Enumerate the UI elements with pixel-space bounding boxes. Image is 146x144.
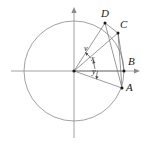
angle-label-v: v: [84, 45, 88, 53]
point-label-A: A: [126, 82, 133, 93]
point-marker-C: [117, 32, 120, 35]
point-label-D: D: [101, 8, 109, 19]
point-label-B: B: [128, 56, 135, 67]
radius-OC: [74, 33, 118, 71]
geometry-figure: A B C D v x y: [0, 0, 146, 144]
angle-label-x: x: [91, 55, 95, 63]
chord-CB: [118, 33, 124, 71]
point-marker-origin: [72, 69, 75, 72]
point-marker-A: [121, 87, 124, 90]
y-axis-arrowhead: [71, 7, 76, 13]
x-axis-arrowhead: [134, 68, 140, 73]
radius-OD: [74, 23, 105, 71]
angle-label-y: y: [92, 68, 96, 76]
point-marker-B: [123, 70, 126, 73]
point-marker-D: [104, 22, 107, 25]
radius-OA: [74, 71, 122, 88]
point-label-C: C: [120, 19, 127, 30]
